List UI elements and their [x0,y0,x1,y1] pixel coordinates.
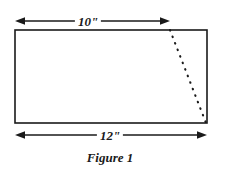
figure-graphic [0,0,225,169]
arrowhead-right-top [160,17,170,25]
dimension-label-bottom: 12" [97,129,123,142]
dimension-label-top: 10" [75,15,101,28]
arrowhead-left-top [15,17,25,25]
figure-caption: Figure 1 [87,151,134,164]
arrowhead-right-bottom [197,131,207,139]
figure-container: 10" 12" Figure 1 [0,0,225,169]
rectangle-shape [15,30,207,123]
arrowhead-left-bottom [15,131,25,139]
